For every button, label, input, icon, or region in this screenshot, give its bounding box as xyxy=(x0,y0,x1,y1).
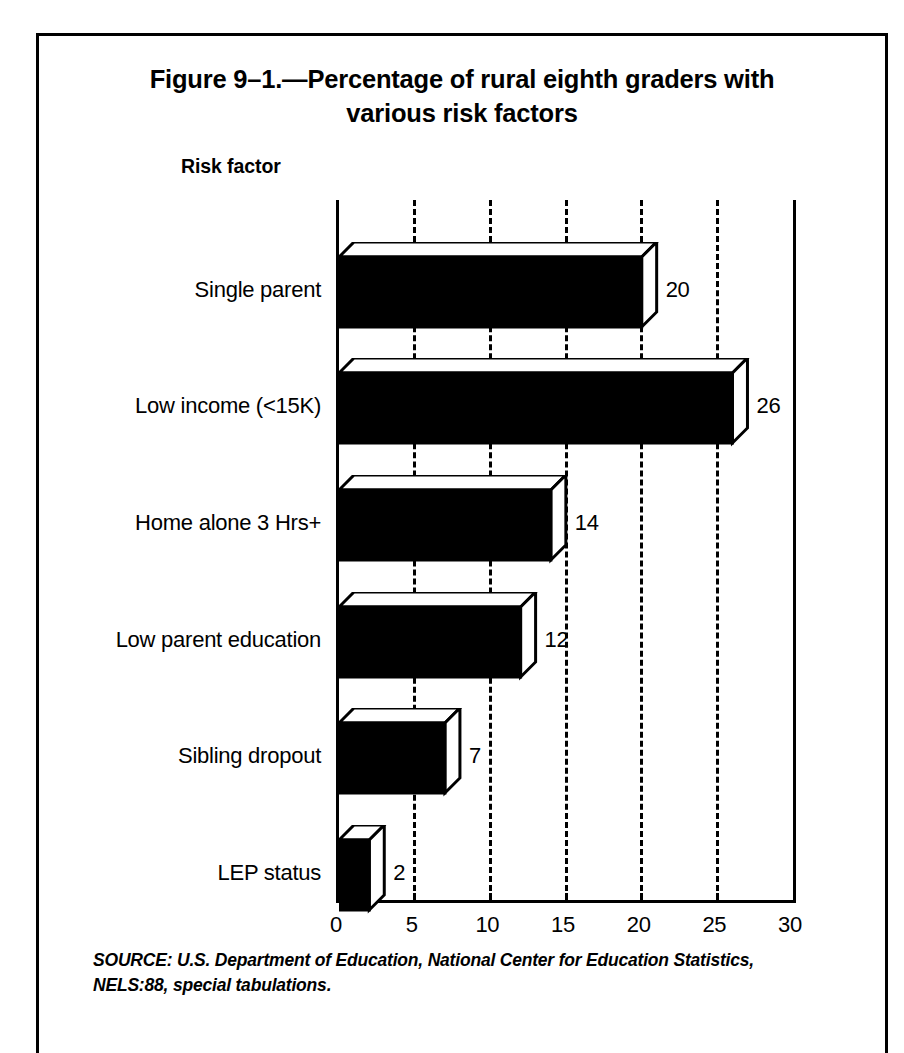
x-tick-label-0: 0 xyxy=(330,912,342,938)
figure-frame: Figure 9–1.—Percentage of rural eighth g… xyxy=(36,33,888,1053)
x-tick-label-20: 20 xyxy=(627,912,651,938)
y-axis-caption: Risk factor xyxy=(181,155,281,178)
category-label-2: Home alone 3 Hrs+ xyxy=(135,510,321,536)
category-label-0: Single parent xyxy=(195,277,321,303)
x-tick-label-30: 30 xyxy=(778,912,802,938)
x-tick-label-5: 5 xyxy=(406,912,418,938)
category-label-5: LEP status xyxy=(218,860,322,886)
figure-title-line-1: Figure 9–1.—Percentage of rural eighth g… xyxy=(150,65,775,93)
category-label-1: Low income (<15K) xyxy=(135,393,321,419)
source-note-line-2: NELS:88, special tabulations. xyxy=(93,973,833,998)
x-tick-label-15: 15 xyxy=(551,912,575,938)
x-tick-label-25: 25 xyxy=(702,912,726,938)
x-tick-label-10: 10 xyxy=(475,912,499,938)
category-label-column: Single parentLow income (<15K)Home alone… xyxy=(39,200,321,900)
category-label-4: Sibling dropout xyxy=(178,743,321,769)
figure-title: Figure 9–1.—Percentage of rural eighth g… xyxy=(39,63,885,130)
x-tick-label-layer: 051015202530 xyxy=(336,200,790,960)
figure-title-line-2: various risk factors xyxy=(39,97,885,131)
source-note: SOURCE: U.S. Department of Education, Na… xyxy=(93,948,833,999)
category-label-3: Low parent education xyxy=(116,627,321,653)
source-note-line-1: SOURCE: U.S. Department of Education, Na… xyxy=(93,950,754,970)
